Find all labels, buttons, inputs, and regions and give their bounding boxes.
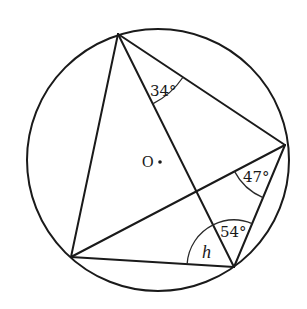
circle-geometry-diagram: O 34° 47° 54° h <box>0 0 307 309</box>
segment-A-D <box>71 34 118 257</box>
center-label: O <box>142 153 154 170</box>
angle-label-34: 34° <box>150 82 177 100</box>
circumcircle <box>27 29 289 291</box>
segment-A-C <box>118 34 234 267</box>
segment-A-B <box>118 34 285 145</box>
angle-label-47: 47° <box>243 168 270 186</box>
angle-label-h: h <box>202 242 211 262</box>
segment-B-D <box>71 145 285 257</box>
segment-B-C <box>234 145 285 267</box>
center-point <box>158 160 162 164</box>
angle-label-54: 54° <box>220 223 247 241</box>
